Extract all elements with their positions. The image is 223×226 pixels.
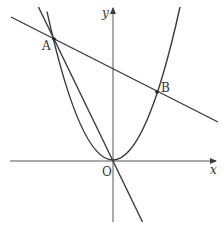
point-a-dot [52,37,56,41]
line-ab [11,17,218,122]
point-b-label: B [161,81,170,95]
point-a-label: A [41,39,51,53]
point-b-dot [155,90,159,94]
coordinate-diagram: A B O x y [0,0,223,226]
y-axis-label: y [101,6,109,20]
origin-label: O [102,165,112,179]
x-axis-label: x [210,163,217,177]
